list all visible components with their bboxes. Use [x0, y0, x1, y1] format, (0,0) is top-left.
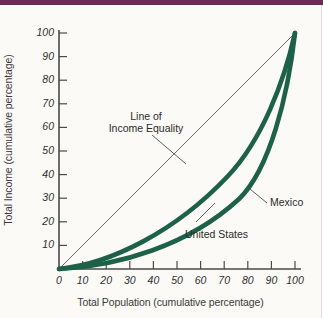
y-tick-label-50: 50 — [22, 144, 54, 156]
annotation-equality-line2: Income Equality — [102, 122, 190, 134]
y-tick-label-70: 70 — [22, 97, 54, 109]
y-axis-title-text: Total Income (cumulative percentage) — [2, 54, 14, 226]
x-tick-label-30: 30 — [119, 274, 141, 286]
x-tick-label-90: 90 — [260, 274, 282, 286]
x-tick-label-100: 100 — [282, 274, 308, 286]
x-tick-label-20: 20 — [95, 274, 117, 286]
equality-line — [59, 33, 295, 269]
annotation-mexico: Mexico — [270, 196, 303, 208]
y-axis-ticks — [59, 33, 67, 245]
equality-leader-line — [152, 135, 186, 164]
y-tick-label-100: 100 — [22, 26, 54, 38]
lorenz-curve-figure: 100 90 80 70 60 50 40 30 20 10 0 10 20 3… — [0, 0, 323, 318]
x-tick-label-80: 80 — [237, 274, 259, 286]
y-tick-label-60: 60 — [22, 120, 54, 132]
y-tick-label-10: 10 — [22, 238, 54, 250]
y-tick-label-40: 40 — [22, 168, 54, 180]
x-tick-label-70: 70 — [213, 274, 235, 286]
y-tick-label-80: 80 — [22, 73, 54, 85]
x-tick-label-60: 60 — [190, 274, 212, 286]
x-tick-label-50: 50 — [166, 274, 188, 286]
y-tick-label-90: 90 — [22, 50, 54, 62]
x-tick-label-0: 0 — [48, 274, 70, 286]
x-tick-label-40: 40 — [142, 274, 164, 286]
y-axis-title: Total Income (cumulative percentage) — [0, 0, 16, 280]
annotation-equality-line1: Line of — [102, 110, 190, 122]
x-tick-label-10: 10 — [72, 274, 94, 286]
chart-plot-area — [0, 0, 323, 318]
mexico-leader-line — [250, 189, 267, 203]
y-tick-label-30: 30 — [22, 191, 54, 203]
annotation-united-states: United States — [185, 228, 248, 240]
x-axis-title: Total Population (cumulative percentage) — [0, 296, 323, 308]
annotation-line-of-income-equality: Line of Income Equality — [102, 110, 190, 135]
y-tick-label-20: 20 — [22, 215, 54, 227]
